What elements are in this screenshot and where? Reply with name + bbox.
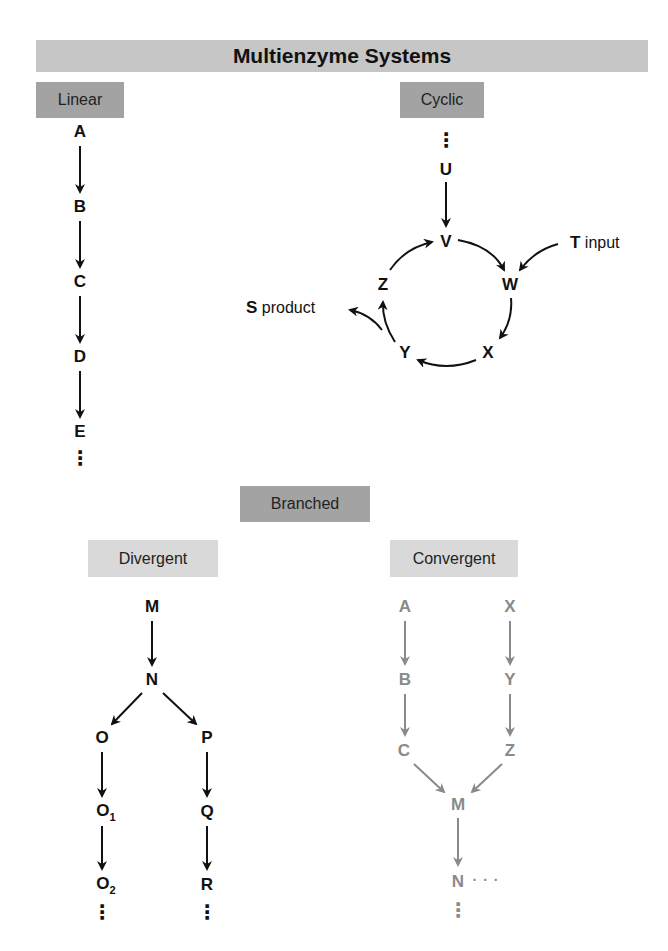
product-symbol: S bbox=[246, 298, 257, 317]
divergent-r-continuation: ⋮ bbox=[197, 900, 217, 924]
cyclic-input-annotation: T input bbox=[570, 233, 620, 253]
arrow-y-z bbox=[383, 302, 395, 342]
divergent-arrows bbox=[102, 621, 207, 869]
linear-node-d: D bbox=[74, 347, 86, 367]
linear-node-b: B bbox=[74, 197, 86, 217]
cyclic-node-u: U bbox=[440, 160, 452, 180]
divergent-node-o2: O2 bbox=[96, 874, 115, 895]
convergent-node-n: N bbox=[452, 872, 464, 892]
divergent-node-o: O bbox=[95, 728, 108, 748]
input-text: input bbox=[585, 234, 620, 251]
convergent-node-m: M bbox=[451, 795, 465, 815]
product-text: product bbox=[262, 299, 315, 316]
input-symbol: T bbox=[570, 233, 580, 252]
convergent-down-continuation: ⋮ bbox=[448, 898, 468, 922]
divergent-node-o1: O1 bbox=[96, 801, 115, 822]
divergent-o-continuation: ⋮ bbox=[92, 900, 112, 924]
arrow-t-input bbox=[520, 244, 558, 270]
arrow-x-y bbox=[418, 360, 476, 366]
arrow-n-o bbox=[112, 693, 142, 724]
convergent-node-a: A bbox=[399, 597, 411, 617]
arrow-n-p bbox=[163, 693, 196, 724]
divergent-node-r: R bbox=[201, 875, 213, 895]
cyclic-entry-continuation: ⋮ bbox=[436, 128, 456, 152]
convergent-node-y: Y bbox=[504, 670, 515, 690]
convergent-node-z: Z bbox=[505, 741, 515, 761]
linear-continuation: ⋮ bbox=[70, 446, 90, 470]
linear-node-e: E bbox=[74, 422, 85, 442]
convergent-node-b: B bbox=[399, 670, 411, 690]
arrow-s-product bbox=[350, 310, 382, 330]
arrow-z-m bbox=[472, 764, 502, 792]
cyclic-node-w: W bbox=[502, 275, 518, 295]
convergent-arrows bbox=[405, 621, 510, 865]
arrow-z-v bbox=[390, 242, 432, 270]
divergent-node-n: N bbox=[146, 670, 158, 690]
arrow-c-m bbox=[414, 764, 444, 792]
cyclic-node-z: Z bbox=[378, 275, 388, 295]
linear-node-a: A bbox=[74, 122, 86, 142]
linear-node-c: C bbox=[74, 272, 86, 292]
cyclic-node-y: Y bbox=[399, 343, 410, 363]
divergent-node-p: P bbox=[201, 728, 212, 748]
arrow-w-x bbox=[500, 298, 511, 338]
convergent-node-c: C bbox=[398, 741, 410, 761]
cyclic-node-x: X bbox=[482, 343, 493, 363]
cyclic-node-v: V bbox=[440, 232, 451, 252]
convergent-right-continuation: · · · bbox=[473, 872, 500, 888]
arrow-v-w bbox=[458, 240, 504, 270]
divergent-node-m: M bbox=[145, 597, 159, 617]
convergent-node-x: X bbox=[504, 597, 515, 617]
cyclic-product-annotation: S product bbox=[246, 298, 315, 318]
cyclic-arrows bbox=[350, 182, 558, 366]
divergent-node-q: Q bbox=[200, 802, 213, 822]
